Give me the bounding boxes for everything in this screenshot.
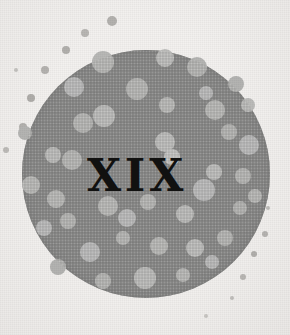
confetti-dot xyxy=(187,57,207,77)
confetti-dot xyxy=(50,259,66,275)
confetti-dot xyxy=(18,126,32,140)
confetti-dot xyxy=(239,135,259,155)
confetti-dot xyxy=(60,213,76,229)
confetti-dot xyxy=(118,209,136,227)
confetti-dot xyxy=(233,201,247,215)
confetti-dot xyxy=(176,268,190,282)
confetti-dot xyxy=(36,220,52,236)
confetti-dot xyxy=(156,49,174,67)
confetti-dot xyxy=(228,76,244,92)
confetti-dot xyxy=(116,231,130,245)
chapter-opener-page: XIX xyxy=(0,0,290,335)
confetti-dot xyxy=(176,205,194,223)
confetti-dot xyxy=(217,230,233,246)
confetti-dot xyxy=(126,78,148,100)
confetti-dot xyxy=(159,97,175,113)
confetti-dot xyxy=(241,98,255,112)
confetti-dot xyxy=(92,51,114,73)
confetti-dot xyxy=(221,124,237,140)
confetti-dot xyxy=(80,242,100,262)
confetti-dot xyxy=(186,239,204,257)
confetti-dot xyxy=(150,237,168,255)
confetti-dot xyxy=(199,86,213,100)
confetti-dot xyxy=(134,267,156,289)
confetti-dot xyxy=(95,273,111,289)
chapter-numeral: XIX xyxy=(0,154,282,198)
confetti-dot xyxy=(73,113,93,133)
confetti-dot xyxy=(93,105,115,127)
confetti-dot xyxy=(205,100,225,120)
confetti-dot xyxy=(205,255,219,269)
confetti-dot xyxy=(64,77,84,97)
